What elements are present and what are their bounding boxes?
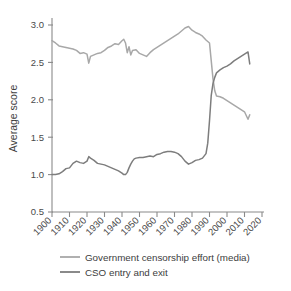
y-tick-label: 3.0 bbox=[31, 19, 44, 30]
x-tick-label: 1930 bbox=[83, 215, 106, 238]
x-tick-label: 2020 bbox=[241, 215, 264, 238]
y-tick-label: 1.5 bbox=[31, 132, 44, 143]
chart-legend: Government censorship effort (media)CSO … bbox=[60, 252, 250, 278]
x-tick-label: 1940 bbox=[101, 215, 124, 238]
line-chart: 0.51.01.52.02.53.0 190019101920193019401… bbox=[0, 0, 291, 291]
x-tick-label: 1970 bbox=[153, 215, 176, 238]
y-tick-label: 2.5 bbox=[31, 57, 44, 68]
x-tick-label: 2000 bbox=[206, 215, 229, 238]
data-series-group bbox=[52, 27, 250, 175]
y-tick-label: 0.5 bbox=[31, 206, 44, 217]
x-tick-label: 1920 bbox=[66, 215, 89, 238]
series-line-censorship bbox=[52, 27, 250, 120]
x-tick-label: 1910 bbox=[48, 215, 71, 238]
x-tick-label: 1990 bbox=[188, 215, 211, 238]
legend-label: Government censorship effort (media) bbox=[85, 252, 250, 263]
x-tick-label: 2010 bbox=[223, 215, 246, 238]
series-line-cso bbox=[52, 52, 250, 175]
y-axis-title-text: Average score bbox=[7, 85, 19, 153]
x-tick-label: 1900 bbox=[31, 215, 54, 238]
y-axis: 0.51.01.52.02.53.0 bbox=[31, 18, 53, 217]
y-tick-label: 1.0 bbox=[31, 169, 44, 180]
chart-figure: 0.51.01.52.02.53.0 190019101920193019401… bbox=[0, 0, 291, 291]
x-tick-label: 1960 bbox=[136, 215, 159, 238]
y-tick-label: 2.0 bbox=[31, 94, 44, 105]
x-tick-label: 1950 bbox=[118, 215, 141, 238]
y-axis-title: Average score bbox=[7, 85, 19, 153]
legend-label: CSO entry and exit bbox=[85, 267, 168, 278]
x-axis: 1900191019201930194019501960197019801990… bbox=[31, 212, 264, 237]
x-tick-label: 1980 bbox=[171, 215, 194, 238]
